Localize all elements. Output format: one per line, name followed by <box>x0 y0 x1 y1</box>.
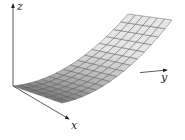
surface-mesh <box>13 14 172 103</box>
y-axis-label: y <box>160 71 168 84</box>
z-axis-label: z <box>16 0 23 13</box>
surface-plot: x y z <box>0 0 185 140</box>
x-axis-label: x <box>71 119 78 132</box>
